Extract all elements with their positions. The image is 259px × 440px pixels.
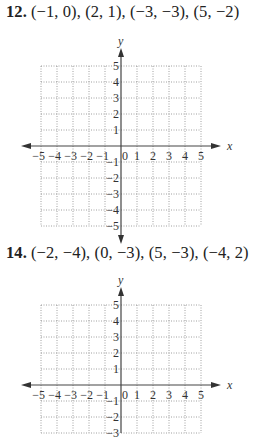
coordinate-grid-14: xy−5−4−3−2−101234554321−1−2−3 bbox=[0, 270, 259, 440]
arrow-left-icon bbox=[21, 382, 31, 388]
arrow-up-icon bbox=[118, 48, 124, 57]
x-tick-label: −2 bbox=[80, 149, 93, 163]
x-tick-label: 5 bbox=[198, 149, 204, 163]
x-tick-label: −4 bbox=[48, 149, 61, 163]
x-tick-label: −2 bbox=[80, 388, 93, 402]
x-tick-label: 0 bbox=[122, 149, 128, 163]
y-tick-label: 2 bbox=[113, 346, 119, 360]
x-tick-label: −5 bbox=[32, 388, 45, 402]
x-tick-label: 1 bbox=[134, 149, 140, 163]
x-axis-label: x bbox=[226, 139, 233, 153]
y-axis-label: y bbox=[117, 273, 124, 287]
problem-14-header: 14.(−2, −4), (0, −3), (5, −3), (−4, 2) bbox=[6, 243, 249, 263]
y-tick-label: −2 bbox=[106, 171, 119, 185]
x-tick-label: 3 bbox=[166, 149, 172, 163]
problem-12-header: 12.(−1, 0), (2, 1), (−3, −3), (5, −2) bbox=[6, 2, 239, 22]
arrow-right-icon bbox=[211, 382, 221, 388]
arrow-up-icon bbox=[118, 287, 124, 296]
x-tick-label: 4 bbox=[182, 388, 188, 402]
y-tick-label: −1 bbox=[106, 155, 119, 169]
y-tick-label: 3 bbox=[113, 330, 119, 344]
x-tick-label: 4 bbox=[182, 149, 188, 163]
x-tick-label: 2 bbox=[150, 388, 156, 402]
y-tick-label: 4 bbox=[113, 314, 119, 328]
x-tick-label: 5 bbox=[198, 388, 204, 402]
y-tick-label: 4 bbox=[113, 75, 119, 89]
y-tick-label: 3 bbox=[113, 91, 119, 105]
y-tick-label: −5 bbox=[106, 219, 119, 233]
x-tick-label: −3 bbox=[64, 388, 77, 402]
x-tick-label: −3 bbox=[64, 149, 77, 163]
problem-points: (−2, −4), (0, −3), (5, −3), (−4, 2) bbox=[31, 243, 249, 262]
y-tick-label: 1 bbox=[113, 362, 119, 376]
coordinate-grid-12: xy−5−4−3−2−101234554321−1−2−3−4−5 bbox=[0, 36, 259, 246]
x-tick-label: −4 bbox=[48, 388, 61, 402]
x-tick-label: 2 bbox=[150, 149, 156, 163]
y-tick-label: 5 bbox=[113, 298, 119, 312]
x-tick-label: −5 bbox=[32, 149, 45, 163]
x-axis-label: x bbox=[226, 378, 233, 392]
arrow-right-icon bbox=[211, 143, 221, 149]
y-tick-label: 5 bbox=[113, 59, 119, 73]
y-tick-label: −1 bbox=[106, 394, 119, 408]
x-tick-label: 1 bbox=[134, 388, 140, 402]
y-tick-label: −3 bbox=[106, 426, 119, 440]
y-tick-label: −2 bbox=[106, 410, 119, 424]
y-tick-label: −4 bbox=[106, 203, 119, 217]
x-tick-label: 0 bbox=[122, 388, 128, 402]
y-tick-label: −3 bbox=[106, 187, 119, 201]
problem-number: 14. bbox=[6, 243, 27, 262]
problem-number: 12. bbox=[6, 2, 27, 21]
arrow-left-icon bbox=[21, 143, 31, 149]
y-tick-label: 2 bbox=[113, 107, 119, 121]
problem-points: (−1, 0), (2, 1), (−3, −3), (5, −2) bbox=[31, 2, 239, 21]
x-tick-label: 3 bbox=[166, 388, 172, 402]
y-tick-label: 1 bbox=[113, 123, 119, 137]
y-axis-label: y bbox=[117, 36, 124, 48]
